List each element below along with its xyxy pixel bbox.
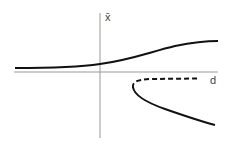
upper-stable-branch	[15, 41, 218, 68]
x-axis-label: d	[210, 74, 216, 86]
unstable-branch	[133, 79, 200, 89]
y-axis-label: x̄	[105, 11, 111, 23]
lower-stable-branch	[133, 87, 215, 125]
bifurcation-diagram	[0, 0, 230, 144]
